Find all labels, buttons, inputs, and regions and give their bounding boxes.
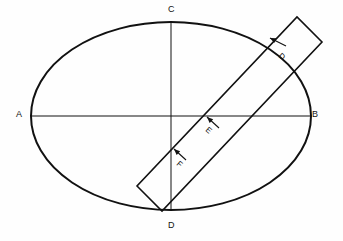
label-point-a: A (16, 110, 22, 119)
label-point-b: B (312, 110, 318, 119)
geometry-figure: A B C D D E F (0, 0, 343, 241)
arrow-group (174, 38, 286, 160)
label-point-d-bottom: D (168, 221, 175, 230)
label-point-c: C (168, 5, 175, 14)
rotated-rectangle-strip (137, 17, 322, 211)
diagram-canvas (0, 0, 343, 241)
